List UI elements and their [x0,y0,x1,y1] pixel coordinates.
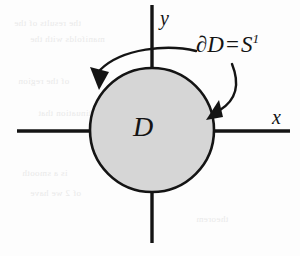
y-axis-label: y [160,8,169,28]
sphere-exponent: 1 [252,31,259,46]
boundary-symbol: ∂D [196,32,224,57]
boundary-pointer-arrow-right-curve [220,64,236,110]
orientation-arrow-left-curve [100,48,196,70]
x-axis-label: x [272,107,281,127]
sphere-symbol: S [241,32,253,57]
region-label-d: D [133,113,153,141]
boundary-equation-label: ∂D=S1 [196,33,259,56]
equals-sign: = [224,32,241,57]
figure-container: the results of the manifolds with the of… [0,0,300,256]
